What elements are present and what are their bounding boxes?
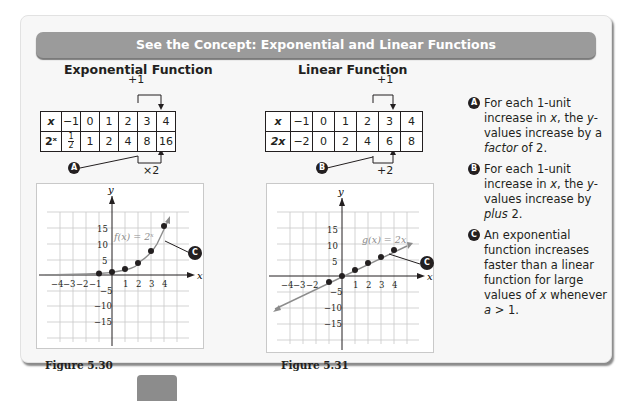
svg-text:−3: −3 <box>293 280 306 290</box>
svg-text:2: 2 <box>136 279 141 289</box>
row-header-x: x <box>266 112 291 132</box>
svg-text:3: 3 <box>149 279 154 289</box>
svg-text:15: 15 <box>327 225 338 235</box>
svg-text:2: 2 <box>366 280 371 290</box>
table-cell: 1 <box>335 112 357 132</box>
exponential-plot: x y −4−3−2−1 1234 15105 −5−10−15 f(x) = … <box>37 184 203 348</box>
function-label-f: f(x) = 2ˣ <box>113 231 154 242</box>
exponential-graph: x y −4−3−2−1 1234 15105 −5−10−15 f(x) = … <box>36 183 204 349</box>
row-header-2x: 2ˣ <box>41 132 62 152</box>
svg-text:3: 3 <box>379 280 384 290</box>
notes-list: A For each 1-unit increase in x, the y-v… <box>468 96 608 324</box>
note-text: x <box>540 288 547 302</box>
svg-text:15: 15 <box>97 224 108 234</box>
table-cell: 2 <box>357 112 379 132</box>
svg-text:1: 1 <box>123 279 128 289</box>
svg-text:y: y <box>107 184 114 195</box>
callout-badge-c-2: C <box>420 256 434 270</box>
svg-text:x: x <box>427 271 433 282</box>
row-header-x: x <box>41 112 62 132</box>
svg-text:10: 10 <box>97 240 108 250</box>
note-text: a <box>484 303 491 317</box>
table-cell: 16 <box>157 132 176 152</box>
svg-text:−5: −5 <box>100 286 113 296</box>
note-text: , the <box>557 111 587 125</box>
exp-bottom-annotation: ×2 <box>143 164 159 177</box>
table-cell: 4 <box>401 112 423 132</box>
table-cell: 8 <box>138 132 157 152</box>
note-a: A For each 1-unit increase in x, the y-v… <box>468 96 608 156</box>
svg-text:10: 10 <box>327 241 338 251</box>
table-cell: 8 <box>401 132 423 152</box>
figure-caption-531: Figure 5.31 <box>281 359 349 371</box>
note-text: whenever <box>547 288 607 302</box>
svg-text:y: y <box>337 186 344 197</box>
table-row: 2ˣ 12 1 2 4 8 16 <box>41 132 176 152</box>
svg-text:−10: −10 <box>94 301 112 311</box>
callout-badge-c-1: C <box>188 246 202 260</box>
svg-text:−15: −15 <box>324 319 342 329</box>
linear-graph: x y −4−3−2 1234 15105 −5−10−15 g(x) = 2x <box>266 183 434 353</box>
note-text: y <box>587 177 594 191</box>
page-tab-stub <box>137 375 177 401</box>
function-label-g: g(x) = 2x <box>362 234 407 245</box>
svg-text:−3: −3 <box>63 279 76 289</box>
note-text: 2. <box>508 207 523 221</box>
svg-text:−15: −15 <box>94 317 112 327</box>
note-text: plus <box>484 207 508 221</box>
note-c: C An exponential function increases fast… <box>468 228 608 318</box>
row-header-2x: 2x <box>266 132 291 152</box>
table-cell: 0 <box>313 132 335 152</box>
table-cell: 1 <box>100 112 119 132</box>
table-row: x −1 0 1 2 3 4 <box>41 112 176 132</box>
table-cell: 6 <box>379 132 401 152</box>
note-text: > 1. <box>491 303 519 317</box>
table-cell: 4 <box>119 132 138 152</box>
table-cell: −1 <box>291 112 313 132</box>
figure-caption-530: Figure 5.30 <box>45 359 113 371</box>
table-cell: 2 <box>119 112 138 132</box>
table-cell: 3 <box>138 112 157 132</box>
svg-text:−4: −4 <box>281 280 294 290</box>
badge-c-icon: C <box>468 229 480 241</box>
table-cell: 1 <box>81 132 100 152</box>
note-text: , the <box>557 177 587 191</box>
table-cell: 2 <box>100 132 119 152</box>
table-cell-half: 12 <box>62 132 81 152</box>
table-row: 2x −2 0 2 4 6 8 <box>266 132 423 152</box>
note-text: y <box>587 111 594 125</box>
linear-plot: x y −4−3−2 1234 15105 −5−10−15 g(x) = 2x <box>267 184 433 352</box>
svg-text:5: 5 <box>102 256 107 266</box>
table-cell: 4 <box>157 112 176 132</box>
table-cell: −1 <box>62 112 81 132</box>
table-row: x −1 0 1 2 3 4 <box>266 112 423 132</box>
table-cell: 2 <box>335 132 357 152</box>
linear-value-table: x −1 0 1 2 3 4 2x −2 0 2 4 6 8 <box>265 111 423 152</box>
svg-text:−2: −2 <box>76 279 89 289</box>
callout-badge-b: B <box>316 162 328 174</box>
callout-badge-a: A <box>68 162 80 174</box>
table-cell: 3 <box>379 112 401 132</box>
svg-text:1: 1 <box>353 280 358 290</box>
svg-text:5: 5 <box>332 257 337 267</box>
badge-b-icon: B <box>468 163 480 175</box>
svg-text:x: x <box>197 270 203 281</box>
table-cell: 4 <box>357 132 379 152</box>
note-text: factor <box>484 141 518 155</box>
svg-text:−5: −5 <box>330 287 343 297</box>
table-cell: 0 <box>81 112 100 132</box>
table-cell: −2 <box>291 132 313 152</box>
lin-bottom-annotation: +2 <box>377 164 393 177</box>
svg-text:4: 4 <box>162 279 167 289</box>
table-cell: 0 <box>313 112 335 132</box>
exponential-value-table: x −1 0 1 2 3 4 2ˣ 12 1 2 4 8 16 <box>40 111 176 152</box>
note-b: B For each 1-unit increase in x, the y-v… <box>468 162 608 222</box>
svg-text:4: 4 <box>392 280 397 290</box>
lin-top-annotation: +1 <box>377 73 393 86</box>
svg-text:−10: −10 <box>324 303 342 313</box>
svg-text:−4: −4 <box>51 279 64 289</box>
note-text: of 2. <box>518 141 547 155</box>
badge-a-icon: A <box>468 97 480 109</box>
